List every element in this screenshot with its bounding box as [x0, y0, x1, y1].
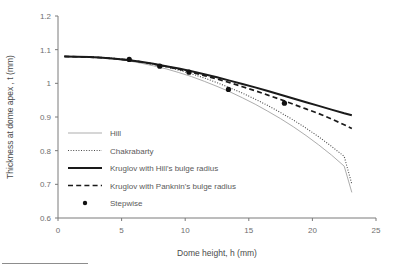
data-point-stepwise — [186, 70, 191, 75]
y-tick-label: 0.6 — [40, 214, 52, 223]
legend-label: Kruglov with Hill's bulge radius — [110, 164, 218, 173]
y-tick-label: 0.7 — [40, 180, 52, 189]
y-tick-label: 1.1 — [40, 46, 52, 55]
legend-label: Hill — [110, 129, 121, 138]
x-tick-label: 10 — [181, 226, 190, 235]
x-axis-title: Dome height, h (mm) — [177, 248, 257, 258]
data-point-stepwise — [127, 57, 132, 62]
page-footer-rule — [2, 263, 88, 264]
data-point-stepwise — [157, 64, 162, 69]
chart-background — [0, 0, 412, 271]
data-point-stepwise — [226, 87, 231, 92]
y-tick-label: 0.9 — [40, 113, 52, 122]
x-tick-label: 0 — [56, 226, 61, 235]
x-tick-label: 5 — [119, 226, 124, 235]
chart-figure: 0.60.70.80.911.11.2 0510152025 Dome heig… — [0, 0, 412, 271]
data-point-stepwise — [282, 101, 287, 106]
x-tick-label: 25 — [372, 226, 381, 235]
legend-label: Kruglov with Panknin's bulge radius — [110, 182, 236, 191]
y-axis-title: Thickness at dome apex , t (mm) — [5, 55, 15, 179]
legend-label: Stepwise — [110, 199, 143, 208]
legend-swatch-marker — [83, 201, 87, 205]
y-tick-label: 1.2 — [40, 12, 52, 21]
thickness-vs-dome-height-chart: 0.60.70.80.911.11.2 0510152025 Dome heig… — [0, 0, 412, 271]
y-tick-label: 1 — [47, 79, 52, 88]
y-tick-label: 0.8 — [40, 147, 52, 156]
x-tick-label: 15 — [244, 226, 253, 235]
x-tick-label: 20 — [308, 226, 317, 235]
legend-label: Chakrabarty — [110, 147, 154, 156]
